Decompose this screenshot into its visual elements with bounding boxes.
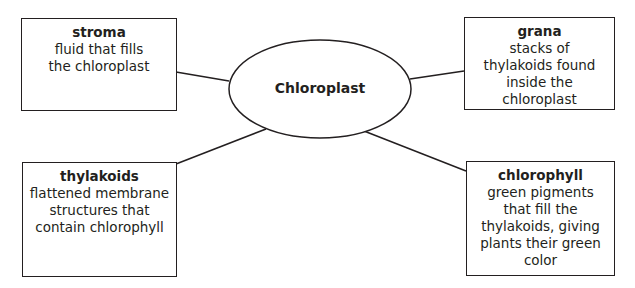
node-term: thylakoids (23, 168, 176, 185)
node-stroma: stroma fluid that fills the chloroplast (21, 18, 177, 111)
node-term: grana (465, 23, 614, 40)
connector-stroma (176, 72, 229, 81)
node-grana: grana stacks of thylakoids found inside … (464, 17, 615, 110)
node-definition: flattened membrane structures that conta… (23, 185, 176, 236)
connector-chlorophyll (364, 131, 466, 171)
connector-thylakoids (176, 129, 266, 164)
node-thylakoids: thylakoids flattened membrane structures… (22, 162, 177, 277)
center-label: Chloroplast (229, 80, 411, 96)
node-definition: green pigments that fill the thylakoids,… (467, 184, 614, 269)
connector-grana (410, 71, 464, 79)
node-term: stroma (22, 24, 176, 41)
node-definition: fluid that fills the chloroplast (22, 41, 176, 75)
node-chlorophyll: chlorophyll green pigments that fill the… (466, 161, 615, 276)
node-definition: stacks of thylakoids found inside the ch… (465, 40, 614, 108)
node-term: chlorophyll (467, 167, 614, 184)
